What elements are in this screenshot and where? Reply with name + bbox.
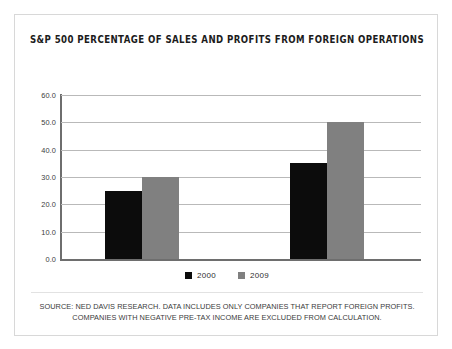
chart-legend: 20002009 — [15, 271, 439, 280]
legend-label: 2009 — [250, 271, 269, 280]
gridline — [61, 122, 421, 123]
gridline — [61, 95, 421, 96]
bar-2000-profits — [290, 163, 327, 259]
y-tick-label: 40.0 — [16, 145, 56, 154]
bar-2009-profits — [327, 122, 364, 259]
legend-label: 2000 — [197, 271, 216, 280]
y-tick-label: 20.0 — [16, 200, 56, 209]
gridline — [61, 150, 421, 151]
gridline — [61, 177, 421, 178]
legend-item-2009[interactable]: 2009 — [238, 271, 269, 280]
source-footnote: SOURCE: NED DAVIS RESEARCH. DATA INCLUDE… — [39, 301, 415, 323]
x-axis-baseline — [61, 259, 421, 261]
y-tick-label: 60.0 — [16, 91, 56, 100]
legend-swatch-icon — [185, 272, 192, 279]
y-tick-label: 30.0 — [16, 173, 56, 182]
legend-swatch-icon — [238, 272, 245, 279]
bar-2000-sales — [105, 191, 142, 259]
bar-2009-sales — [142, 177, 179, 259]
chart-figure: S&P 500 PERCENTAGE OF SALES AND PROFITS … — [14, 14, 438, 336]
footnote-divider — [31, 292, 423, 293]
y-tick-label: 50.0 — [16, 118, 56, 127]
y-tick-label: 10.0 — [16, 227, 56, 236]
y-axis-tick-labels: 60.050.040.030.020.010.00.0 — [15, 95, 56, 259]
y-tick-label: 0.0 — [16, 255, 56, 264]
legend-item-2000[interactable]: 2000 — [185, 271, 216, 280]
plot-area — [61, 95, 421, 259]
chart-title: S&P 500 PERCENTAGE OF SALES AND PROFITS … — [30, 33, 424, 45]
